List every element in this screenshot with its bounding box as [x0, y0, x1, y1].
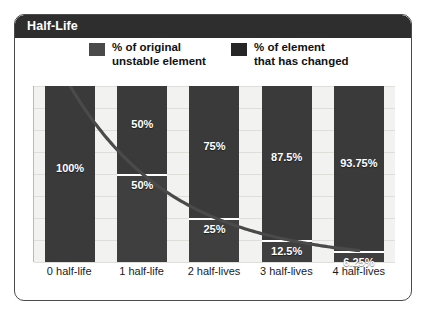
chart-bar: 93.75%6.25%: [334, 86, 384, 262]
bar-label-changed: 87.5%: [271, 151, 302, 163]
bar-label-changed: 75%: [203, 140, 225, 152]
bar-label-original: 50%: [131, 179, 153, 191]
legend-label-original: % of original unstable element: [112, 41, 206, 68]
bar-label-changed: 93.75%: [340, 157, 377, 169]
bar-segment-changed: 87.5%: [262, 86, 312, 240]
legend-swatch-icon-changed: [231, 43, 247, 56]
x-axis-label: 2 half-lives: [179, 265, 249, 285]
chart-plot-area: 100%50%50%75%25%87.5%12.5%93.75%6.25%: [33, 86, 395, 262]
plot-background: 100%50%50%75%25%87.5%12.5%93.75%6.25%: [33, 86, 395, 262]
chart-bar: 75%25%: [189, 86, 239, 262]
page-title: Half-Life: [27, 19, 78, 33]
bar-segment-changed: 75%: [189, 86, 239, 218]
legend-item-changed: % of element that has changed: [231, 41, 349, 68]
legend-item-original-unstable: % of original unstable element: [89, 41, 206, 68]
bar-label-changed: 50%: [131, 118, 153, 130]
bar-label-original: 25%: [203, 223, 225, 235]
bar-segment-original: 50%: [117, 174, 167, 262]
bar-segment-original: 25%: [189, 218, 239, 262]
bar-segment-changed: 100%: [45, 86, 95, 262]
bar-segment-changed: 93.75%: [334, 86, 384, 251]
chart-x-axis-labels: 0 half-life1 half-life2 half-lives3 half…: [33, 265, 395, 285]
gridline: [34, 262, 395, 263]
legend-label-original-line1: % of original: [112, 41, 181, 53]
bar-segment-changed: 50%: [117, 86, 167, 174]
bar-segment-original: 6.25%: [334, 251, 384, 262]
x-axis-label: 1 half-life: [107, 265, 177, 285]
legend-label-changed: % of element that has changed: [254, 41, 349, 68]
chart-bars: 100%50%50%75%25%87.5%12.5%93.75%6.25%: [34, 86, 395, 262]
chart-legend: % of original unstable element % of elem…: [15, 41, 411, 83]
legend-label-changed-line2: that has changed: [254, 55, 349, 67]
x-axis-label: 3 half-lives: [251, 265, 321, 285]
chart-bar: 50%50%: [117, 86, 167, 262]
half-life-panel: Half-Life % of original unstable element…: [14, 14, 412, 301]
bar-label-original: 12.5%: [271, 245, 302, 257]
chart-bar: 87.5%12.5%: [262, 86, 312, 262]
x-axis-label: 4 half-lives: [324, 265, 394, 285]
bar-label-changed: 100%: [56, 162, 84, 174]
chart-bar: 100%: [45, 86, 95, 262]
bar-segment-original: 12.5%: [262, 240, 312, 262]
panel-title-bar: Half-Life: [15, 15, 411, 38]
legend-swatch-icon-original: [89, 43, 105, 56]
x-axis-label: 0 half-life: [34, 265, 104, 285]
legend-label-original-line2: unstable element: [112, 55, 206, 67]
legend-label-changed-line1: % of element: [254, 41, 325, 53]
